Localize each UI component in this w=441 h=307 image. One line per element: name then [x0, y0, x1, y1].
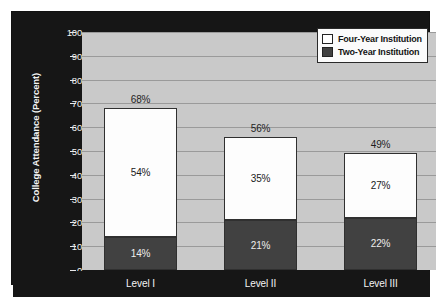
- bar-segment-two-year[interactable]: 14%: [104, 237, 177, 270]
- chart-frame: College Attendance (Percent) 100 90 80 7…: [11, 11, 430, 285]
- y-tick-mark: [70, 222, 76, 223]
- bar-total-label: 56%: [224, 123, 297, 134]
- y-tick-label: 70: [52, 99, 82, 109]
- plot-area: 54% 14% 68% 35% 21% 56% 27%: [82, 32, 436, 270]
- y-tick-label: 10: [52, 242, 82, 252]
- bar-segment-four-year[interactable]: 27%: [344, 153, 417, 217]
- bar-group-level-iii[interactable]: 27% 22%: [344, 153, 417, 270]
- figure-caption: [12, 299, 192, 307]
- bar-segment-label: 22%: [371, 238, 390, 249]
- legend-item-two-year[interactable]: Two-Year Institution: [322, 46, 422, 58]
- bar-segment-label: 27%: [371, 180, 390, 191]
- y-tick-mark: [70, 175, 76, 176]
- bar-segment-four-year[interactable]: 54%: [104, 108, 177, 237]
- y-tick-mark: [70, 246, 76, 247]
- y-tick-mark: [70, 103, 76, 104]
- y-tick-mark: [70, 80, 76, 81]
- legend-swatch-icon: [322, 47, 333, 57]
- y-axis-ticks: 100 90 80 70 60 50 40 30 20 10 0: [38, 32, 82, 270]
- bar-total-label: 49%: [344, 139, 417, 150]
- legend-item-four-year[interactable]: Four-Year Institution: [322, 33, 422, 45]
- y-tick-mark: [70, 127, 76, 128]
- y-tick-label: 30: [52, 195, 82, 205]
- y-tick-mark: [70, 56, 76, 57]
- y-tick-label: 40: [52, 171, 82, 181]
- y-tick-label: 20: [52, 218, 82, 228]
- y-tick-label: 90: [52, 52, 82, 62]
- bar-segment-label: 35%: [251, 173, 270, 184]
- legend-label: Two-Year Institution: [338, 47, 419, 57]
- gridline: [82, 80, 436, 81]
- bar-segment-two-year[interactable]: 22%: [344, 218, 417, 270]
- bar-group-level-ii[interactable]: 35% 21%: [224, 137, 297, 270]
- bar-segment-label: 54%: [131, 167, 150, 178]
- legend-swatch-icon: [322, 34, 333, 44]
- bar-group-level-i[interactable]: 54% 14%: [104, 108, 177, 270]
- y-tick-label: 50: [52, 147, 82, 157]
- bar-segment-label: 14%: [131, 248, 150, 259]
- x-axis-label-level-i: Level I: [104, 278, 177, 289]
- legend-label: Four-Year Institution: [338, 34, 422, 44]
- legend[interactable]: Four-Year Institution Two-Year Instituti…: [317, 28, 428, 63]
- bar-segment-label: 21%: [251, 240, 270, 251]
- y-tick-mark: [70, 199, 76, 200]
- x-axis-label-level-iii: Level III: [344, 278, 417, 289]
- x-axis-category-band: Level I Level II Level III: [13, 271, 430, 297]
- y-tick-label: 100: [52, 28, 82, 38]
- figure: College Attendance (Percent) 100 90 80 7…: [0, 0, 441, 307]
- x-axis-label-level-ii: Level II: [224, 278, 297, 289]
- y-tick-mark: [70, 151, 76, 152]
- bar-segment-four-year[interactable]: 35%: [224, 137, 297, 220]
- y-tick-mark: [70, 32, 76, 33]
- bar-total-label: 68%: [104, 94, 177, 105]
- y-tick-label: 60: [52, 123, 82, 133]
- y-tick-label: 80: [52, 76, 82, 86]
- bar-segment-two-year[interactable]: 21%: [224, 220, 297, 270]
